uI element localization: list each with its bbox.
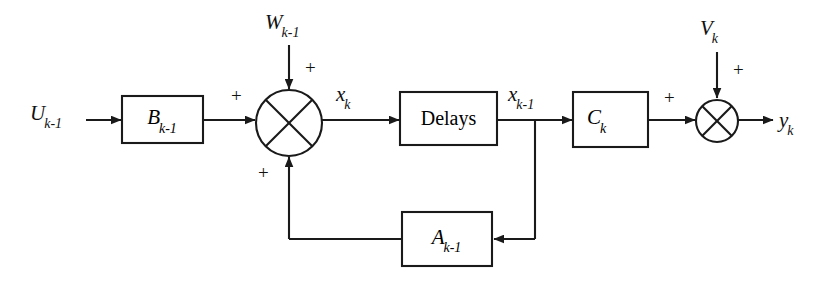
signal-label-noise-v: Vk bbox=[700, 18, 719, 43]
signal-label-state-xk-sub: k bbox=[344, 97, 350, 112]
signal-label-input-u-main: U bbox=[30, 101, 45, 125]
sign-plus-v-into-output-summer: + bbox=[733, 60, 744, 79]
sign-plus-a-into-state-summer: + bbox=[258, 163, 269, 182]
sign-plus-c-into-output-summer: + bbox=[664, 88, 675, 107]
block-rect-a bbox=[402, 212, 492, 266]
signal-label-state-xk1: xk-1 bbox=[508, 84, 535, 109]
block-rect-b bbox=[122, 96, 203, 143]
signal-label-noise-w-sub: k-1 bbox=[282, 25, 300, 40]
signal-label-noise-w-main: W bbox=[265, 10, 283, 34]
block-diagram-canvas: Bk-1 Delays Ck Ak-1 Uk-1 Wk-1 xk xk-1 Vk… bbox=[0, 0, 824, 284]
block-rect-c bbox=[573, 92, 648, 147]
signal-label-input-u: Uk-1 bbox=[30, 103, 63, 128]
signal-label-output-y: yk bbox=[779, 110, 795, 135]
signal-label-input-u-sub: k-1 bbox=[44, 116, 62, 131]
signal-label-state-xk1-sub: k-1 bbox=[516, 97, 534, 112]
sign-plus-b-into-state-summer: + bbox=[231, 86, 242, 105]
signal-label-noise-v-sub: k bbox=[712, 31, 718, 46]
signal-label-output-y-sub: k bbox=[787, 123, 793, 138]
signal-label-state-xk: xk bbox=[336, 84, 352, 109]
signal-label-noise-w: Wk-1 bbox=[265, 12, 300, 37]
block-rect-delays bbox=[400, 92, 497, 145]
signal-label-noise-v-main: V bbox=[700, 16, 713, 40]
sign-plus-w-into-state-summer: + bbox=[305, 58, 316, 77]
